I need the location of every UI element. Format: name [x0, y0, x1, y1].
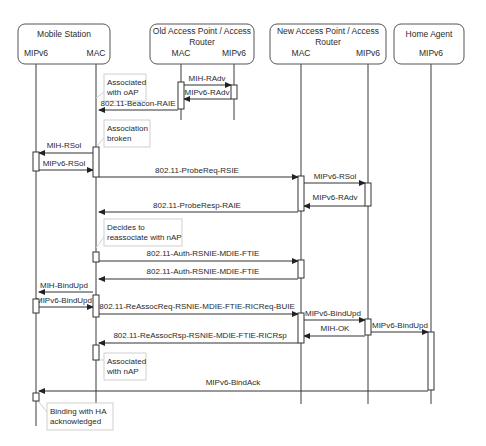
participant-ms: Mobile StationMIPv6MAC — [18, 24, 110, 64]
participant-title: Router — [315, 37, 341, 47]
note-text: Association — [107, 124, 148, 133]
note-text: Decides to — [107, 223, 145, 232]
activation-bar — [298, 260, 304, 278]
lifeline-label: MIPv6 — [356, 48, 380, 58]
message-label: MIH-RSol — [47, 141, 82, 150]
activation-bar — [428, 332, 434, 390]
activation-bar — [93, 147, 99, 177]
activation-bar — [298, 176, 304, 211]
message-label: MIPv6-BindAck — [206, 378, 262, 387]
message-label: MIH-BindUpd — [40, 281, 88, 290]
message-arrow: MIPv6-BindAck — [39, 378, 428, 391]
lifeline-label: MIPv6 — [222, 48, 246, 58]
participant-title: Mobile Station — [37, 29, 91, 39]
note-text: reassociate with nAP — [107, 233, 182, 242]
note: Decides toreassociate with nAP — [96, 219, 182, 248]
message-arrow: MIPv6-RAdv — [304, 193, 365, 206]
message-label: MIPv6-BindUpd — [305, 309, 361, 318]
note: Associatedwith oAP — [96, 74, 146, 101]
messages: MIH-RAdvMIPv6-RAdv802.11-Beacon-RAIEMIH-… — [36, 74, 428, 391]
message-label: MIPv6-RSol — [43, 159, 86, 168]
lifeline-label: MAC — [292, 48, 311, 58]
message-label: MIH-RAdv — [189, 74, 226, 83]
message-arrow: 802.11-Beacon-RAIE — [99, 99, 178, 110]
message-label: 802.11-ReAssocReq-RSNIE-MDIE-FTIE-RICReq… — [99, 302, 294, 311]
participant-title: Old Access Point / Access — [153, 26, 251, 36]
participant-title: New Access Point / Access — [277, 26, 379, 36]
note: Associatedwith nAP — [96, 353, 146, 380]
message-label: 802.11-Beacon-RAIE — [100, 99, 175, 108]
message-label: 802.11-ReAssocRsp-RSNIE-MDIE-FTIE-RICRsp — [113, 331, 287, 340]
message-label: MIPv6-RAdv — [313, 193, 358, 202]
note-text: Binding with HA — [50, 407, 107, 416]
message-arrow: 802.11-Auth-RSNIE-MDIE-FTIE — [99, 249, 298, 261]
message-arrow: MIPv6-BindUpd — [304, 309, 365, 320]
message-arrow: 802.11-Auth-RSNIE-MDIE-FTIE — [99, 267, 298, 279]
activation-bar — [33, 152, 39, 171]
lifeline-label: MAC — [172, 48, 191, 58]
message-arrow: MIPv6-BindUpd — [371, 321, 428, 332]
message-arrow: MIPv6-BindUpd — [36, 296, 93, 307]
note: Binding with HAacknowledged — [38, 401, 113, 430]
message-arrow: MIPv6-RSol — [39, 159, 93, 170]
note: Associationbroken — [96, 120, 150, 147]
message-arrow: MIH-RAdv — [184, 74, 231, 85]
activation-bar — [365, 319, 371, 335]
message-arrow: MIPv6-RSol — [304, 172, 365, 183]
note-text: broken — [107, 134, 131, 143]
message-label: 802.11-Auth-RSNIE-MDIE-FTIE — [147, 267, 260, 276]
lifeline-label: MAC — [87, 48, 106, 58]
message-label: 802.11-ProbeResp-RAIE — [153, 201, 241, 210]
activation-bar — [33, 393, 39, 401]
message-arrow: MIPv6-RAdv — [184, 88, 231, 99]
participant-nap: New Access Point / AccessRouterMACMIPv6 — [270, 24, 386, 64]
participant-ha: Home AgentMIPv6 — [394, 24, 464, 64]
message-label: MIH-OK — [321, 324, 351, 333]
message-label: MIPv6-BindUpd — [36, 296, 92, 305]
lifeline-label: MIPv6 — [24, 48, 48, 58]
activation-bar — [365, 183, 371, 206]
activation-bar — [93, 295, 99, 317]
activation-bar — [178, 82, 184, 109]
activation-bar — [231, 85, 237, 99]
message-label: 802.11-Auth-RSNIE-MDIE-FTIE — [147, 249, 260, 258]
message-arrow: MIH-BindUpd — [39, 281, 93, 292]
message-label: MIPv6-RAdv — [185, 88, 230, 97]
note-text: with nAP — [106, 367, 139, 376]
message-arrow: MIH-OK — [304, 324, 365, 336]
participant-title: Home Agent — [406, 29, 453, 39]
activation-bar — [93, 345, 99, 360]
note-text: acknowledged — [50, 417, 101, 426]
participants: Mobile StationMIPv6MACOld Access Point /… — [18, 24, 464, 64]
activation-bar — [33, 299, 39, 313]
note-text: Associated — [107, 78, 146, 87]
lifeline-label: MIPv6 — [419, 48, 443, 58]
message-arrow: 802.11-ReAssocRsp-RSNIE-MDIE-FTIE-RICRsp — [99, 331, 298, 343]
activation-bar — [93, 252, 99, 262]
sequence-diagram: Mobile StationMIPv6MACOld Access Point /… — [0, 0, 486, 446]
participant-title: Router — [189, 37, 215, 47]
message-arrow: 802.11-ProbeResp-RAIE — [99, 201, 298, 212]
note-connector — [96, 138, 104, 147]
note-connector — [38, 401, 47, 412]
note-text: with oAP — [106, 88, 139, 97]
activation-bar — [298, 313, 304, 343]
activations — [33, 82, 434, 401]
message-arrow: 802.11-ReAssocReq-RSNIE-MDIE-FTIE-RICReq… — [99, 302, 298, 314]
message-label: MIPv6-RSol — [314, 172, 357, 181]
message-label: 802.11-ProbeReq-RSIE — [155, 166, 239, 175]
message-label: MIPv6-BindUpd — [372, 321, 428, 330]
participant-oap: Old Access Point / AccessRouterMACMIPv6 — [150, 24, 254, 64]
lifelines — [36, 64, 431, 426]
note-connector — [96, 92, 104, 98]
note-text: Associated — [107, 357, 146, 366]
note-connector — [96, 237, 104, 248]
message-arrow: MIH-RSol — [39, 141, 93, 153]
message-arrow: 802.11-ProbeReq-RSIE — [99, 166, 298, 177]
